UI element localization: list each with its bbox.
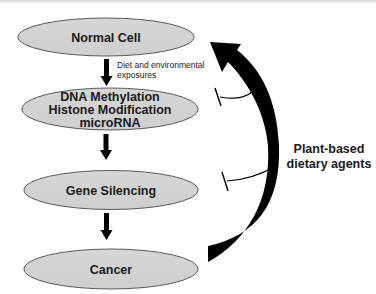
node-label-histone-modification: Histone Modification (49, 103, 172, 117)
inhibitor-label-line-2: dietary agents (287, 157, 372, 171)
reversal-arrow (208, 42, 279, 262)
node-epigenetic: DNA Methylation Histone Modification mic… (22, 88, 198, 130)
epigenetics-diagram: Normal Cell Diet and environmental expos… (0, 0, 376, 294)
node-cancer: Cancer (24, 249, 198, 289)
node-label-dna-methylation: DNA Methylation (60, 90, 160, 104)
svg-text:exposures: exposures (117, 70, 156, 80)
inhibitor-label: Plant-based dietary agents (287, 142, 372, 171)
node-normal-cell: Normal Cell (18, 18, 194, 56)
node-label: Normal Cell (71, 31, 140, 45)
node-gene-silencing: Gene Silencing (24, 171, 198, 210)
inhibitor-label-line-1: Plant-based (294, 142, 365, 156)
down-arrow-2 (100, 134, 112, 160)
node-label: Cancer (90, 263, 133, 277)
node-label-microrna: microRNA (79, 116, 140, 130)
svg-text:Diet and environmental: Diet and environmental (117, 60, 205, 70)
edge-label-diet: Diet and environmental exposures (117, 60, 205, 80)
node-label: Gene Silencing (66, 184, 156, 198)
down-arrow-1 (101, 59, 113, 86)
down-arrow-3 (101, 213, 113, 240)
